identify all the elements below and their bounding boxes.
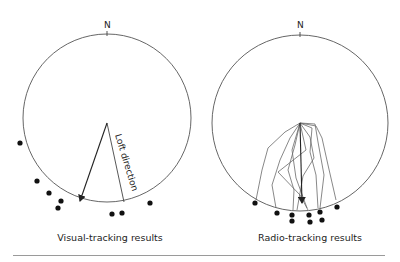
radio-tracks <box>256 123 336 210</box>
bottom-divider <box>13 255 385 256</box>
loft-direction-label: Loft direction <box>113 133 140 193</box>
bird-endpoint-dot <box>289 218 294 223</box>
radio-flight-track <box>278 123 308 210</box>
bird-endpoint-dot <box>306 212 311 217</box>
radio-flight-track <box>300 123 324 208</box>
visual-tracking-caption: Visual-tracking results <box>57 232 163 243</box>
bird-endpoint-dot <box>334 204 339 209</box>
bird-endpoint-dot <box>34 178 39 183</box>
bird-endpoint-dot <box>252 200 257 205</box>
bird-endpoint-dot <box>317 209 322 214</box>
radio-north-label: N <box>297 20 304 30</box>
radio-tracking-panel: N <box>212 20 388 225</box>
visual-compass-circle <box>23 34 191 202</box>
radio-tracking-caption: Radio-tracking results <box>258 232 362 243</box>
bird-endpoint-dot <box>46 190 51 195</box>
bird-endpoint-dot <box>307 219 312 224</box>
bird-endpoint-dot <box>289 212 294 217</box>
visual-mean-arrow <box>80 123 107 201</box>
visual-north-label: N <box>104 20 111 30</box>
bird-endpoint-dot <box>17 140 22 145</box>
bird-endpoint-dot <box>55 205 60 210</box>
visual-tracking-panel: N Loft direction <box>17 20 191 217</box>
bird-endpoint-dot <box>109 211 114 216</box>
figure-canvas: N Loft direction N <box>0 0 400 262</box>
radio-flight-track <box>300 123 336 200</box>
bird-endpoint-dot <box>58 198 63 203</box>
bird-endpoint-dot <box>319 217 324 222</box>
bird-endpoint-dot <box>119 210 124 215</box>
bird-endpoint-dot <box>147 200 152 205</box>
bird-endpoint-dot <box>274 210 279 215</box>
